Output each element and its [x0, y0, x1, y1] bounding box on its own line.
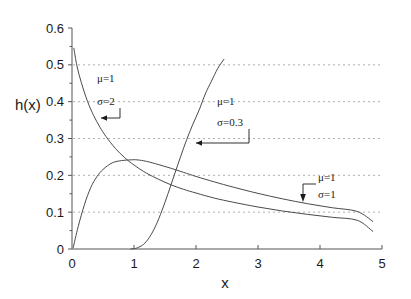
data-curves — [73, 48, 372, 249]
x-tick-label: 0 — [68, 256, 75, 271]
y-axis-tick-labels: 00.10.20.30.40.50.6 — [46, 21, 64, 257]
y-axis-ticks — [68, 28, 72, 249]
y-tick-label: 0.3 — [46, 131, 64, 146]
x-tick-label: 3 — [254, 256, 261, 271]
annotation-sigma-03-line2: σ=0.3 — [217, 116, 243, 128]
annotation-sigma-03-arrowhead — [196, 140, 202, 146]
y-tick-label: 0.4 — [46, 94, 64, 109]
chart-figure: 00.10.20.30.40.50.6 012345 h(x) x μ=1 σ=… — [0, 0, 411, 299]
x-axis-ticks — [134, 245, 382, 249]
curve-mu-1-sigma-0-3 — [131, 59, 224, 249]
y-tick-label: 0.5 — [46, 57, 64, 72]
annotation-sigma-1-line1: μ=1 — [318, 171, 336, 183]
y-tick-label: 0 — [57, 242, 64, 257]
y-axis-title: h(x) — [15, 96, 41, 113]
annotation-sigma-2-leader — [101, 108, 120, 118]
y-tick-label: 0.2 — [46, 168, 64, 183]
annotation-sigma-2-line2: σ=2 — [97, 95, 115, 107]
chart-svg: 00.10.20.30.40.50.6 012345 h(x) x μ=1 σ=… — [0, 0, 411, 299]
annotation-sigma-03-line1: μ=1 — [217, 95, 235, 107]
annotation-sigma-2-arrowhead — [101, 115, 107, 121]
annotation-sigma-2-line1: μ=1 — [97, 72, 115, 84]
x-axis-title: x — [221, 274, 229, 291]
annotation-sigma-03-leader — [196, 129, 249, 143]
x-tick-label: 2 — [192, 256, 199, 271]
x-tick-label: 5 — [378, 256, 385, 271]
x-tick-label: 1 — [130, 256, 137, 271]
annotation-sigma-1-arrowhead — [300, 194, 306, 202]
y-tick-label: 0.6 — [46, 21, 64, 36]
annotation-sigma-2: μ=1 σ=2 — [97, 72, 120, 121]
annotation-sigma-1-line2: σ=1 — [318, 188, 336, 200]
curve-mu-1-sigma-2 — [74, 48, 373, 231]
annotation-sigma-1: μ=1 σ=1 — [300, 171, 335, 202]
x-tick-label: 4 — [316, 256, 323, 271]
x-axis-tick-labels: 012345 — [68, 256, 385, 271]
y-tick-label: 0.1 — [46, 205, 64, 220]
